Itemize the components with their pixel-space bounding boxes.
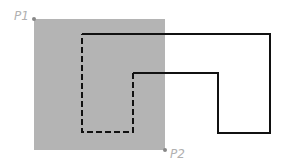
point-p1-marker bbox=[32, 17, 36, 21]
selection-rect bbox=[34, 19, 165, 150]
point-p1-label: P1 bbox=[14, 9, 29, 23]
point-p2-label: P2 bbox=[170, 147, 185, 161]
shape-outside-solid bbox=[165, 34, 270, 133]
diagram-canvas: P1 P2 bbox=[0, 0, 287, 167]
point-p2-marker bbox=[163, 148, 167, 152]
